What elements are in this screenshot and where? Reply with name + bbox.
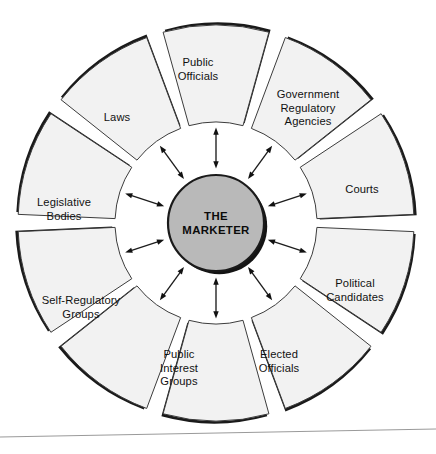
arrow-shaft-4: [252, 272, 269, 295]
arrow-head-outward-4: [266, 293, 272, 300]
arrow-shaft-8: [131, 195, 158, 204]
arrow-head-inward-7: [156, 240, 164, 245]
center-hub: [168, 175, 267, 274]
footer-rule: [0, 429, 436, 437]
footer-divider-line: [0, 429, 436, 437]
arrow-to-segment-2: [268, 193, 307, 206]
arrow-head-outward-5: [213, 311, 218, 318]
arrow-head-inward-9: [178, 172, 184, 179]
arrow-head-outward-0: [213, 128, 218, 135]
arrow-shaft-3: [274, 242, 301, 251]
arrow-to-segment-0: [213, 128, 218, 169]
arrow-shaft-9: [163, 151, 180, 174]
diagram-canvas: Public OfficialsGovernment Regulatory Ag…: [0, 0, 436, 454]
arrow-head-outward-6: [160, 293, 166, 300]
segment-public-officials-shape: [163, 25, 269, 126]
arrow-head-outward-1: [266, 146, 272, 153]
arrow-head-inward-4: [248, 267, 254, 274]
arrow-head-outward-8: [125, 193, 133, 198]
arrow-to-segment-3: [268, 240, 307, 253]
arrow-shaft-6: [163, 272, 180, 295]
arrow-shaft-7: [131, 242, 158, 251]
arrow-to-segment-7: [125, 240, 164, 253]
segment-public-interest-groups-shape: [163, 320, 269, 421]
arrow-head-inward-1: [248, 172, 254, 179]
arrow-head-outward-9: [160, 146, 166, 153]
arrow-head-inward-8: [156, 201, 164, 206]
arrow-head-outward-7: [125, 248, 133, 253]
arrow-to-segment-4: [248, 267, 272, 300]
arrow-head-inward-2: [268, 201, 276, 206]
arrow-to-segment-1: [248, 146, 272, 179]
arrow-head-outward-3: [299, 248, 307, 253]
arrow-shaft-1: [252, 151, 269, 174]
arrow-to-segment-6: [160, 267, 184, 300]
arrow-to-segment-8: [125, 193, 164, 206]
arrow-shaft-2: [274, 195, 301, 204]
segment-public-interest-groups: [161, 320, 269, 423]
segment-public-officials: [163, 23, 271, 126]
arrow-head-inward-5: [213, 278, 218, 285]
arrow-head-inward-3: [268, 240, 276, 245]
marketer-wheel-graphic: [0, 0, 436, 454]
center-hub-circle: [168, 175, 264, 271]
arrow-to-segment-5: [213, 278, 218, 319]
arrow-head-inward-6: [178, 267, 184, 274]
arrow-head-outward-2: [299, 193, 307, 198]
arrow-head-inward-0: [213, 161, 218, 168]
arrow-to-segment-9: [160, 146, 184, 179]
